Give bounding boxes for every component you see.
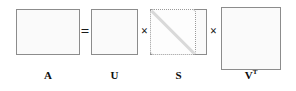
matrix-vt-label-base: V: [245, 69, 253, 81]
matrix-s-diagonal-block: [150, 9, 196, 55]
matrix-vt-label-superscript: T: [253, 68, 258, 76]
svd-diagram: = × × A U S VT: [0, 0, 296, 91]
matrix-u-box: [91, 9, 138, 55]
matrix-a-label: A: [16, 70, 80, 81]
matrix-s-label: S: [150, 70, 207, 81]
multiply-operator-2: ×: [208, 25, 219, 37]
diagonal-line: [150, 9, 196, 55]
matrix-vt-label: VT: [221, 70, 281, 81]
matrix-vt-box: [221, 7, 281, 70]
matrix-a-box: [16, 9, 80, 55]
multiply-operator-1: ×: [139, 25, 150, 37]
matrix-u-label: U: [91, 70, 138, 81]
equals-operator: =: [80, 24, 90, 39]
